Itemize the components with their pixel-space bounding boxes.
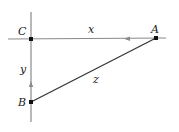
label-z: z [92, 73, 99, 86]
right-triangle-diagram: C A B x y z [0, 0, 179, 132]
arrow-up-icon [29, 81, 33, 87]
point-b [29, 100, 33, 104]
arrow-left-icon [124, 37, 130, 41]
hypotenuse-z-line [31, 38, 156, 102]
label-y: y [19, 63, 27, 76]
point-a [154, 36, 158, 40]
label-c: C [18, 25, 27, 38]
label-b: B [17, 96, 26, 109]
label-x: x [88, 23, 95, 36]
label-a: A [150, 23, 159, 36]
point-c [29, 37, 33, 41]
